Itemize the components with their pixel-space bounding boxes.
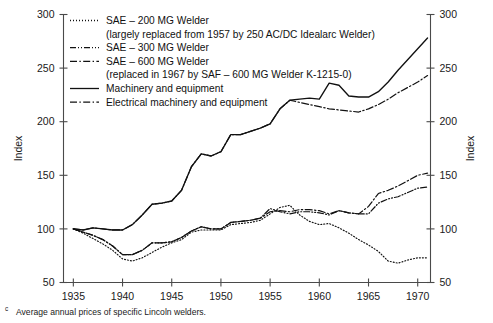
y-axis-title-left: Index [12,135,24,161]
series-line [73,38,427,230]
y-axis-title-right: Index [464,135,476,161]
y-tick-label-left: 100 [37,223,55,235]
x-tick-label: 1960 [308,290,332,302]
x-tick-label: 1935 [62,290,86,302]
y-tick-label-left: 300 [37,8,55,20]
y-tick-label-right: 200 [440,115,458,127]
legend-label: Electrical machinery and equipment [106,97,268,108]
y-tick-label-left: 50 [43,276,55,288]
x-tick-label: 1970 [406,290,430,302]
legend-label: SAE – 200 MG Welder [106,15,209,26]
y-tick-label-right: 50 [440,276,452,288]
x-tick-label: 1945 [160,290,184,302]
legend-label: (largely replaced from 1957 by 250 AC/DC… [106,29,375,40]
x-tick-label: 1955 [258,290,282,302]
series-line [73,173,427,254]
legend-label: SAE – 300 MG Welder [106,42,209,53]
axes: 5050100100150150200200250250300300193519… [12,8,476,301]
x-tick-label: 1940 [111,290,135,302]
y-tick-label-right: 250 [440,62,458,74]
chart-legend: SAE – 200 MG Welder(largely replaced fro… [70,15,375,108]
y-tick-label-right: 300 [440,8,458,20]
legend-label: (replaced in 1967 by SAF – 600 MG Welder… [106,69,352,80]
figure-container: 5050100100150150200200250250300300193519… [0,0,493,323]
legend-label: SAE – 600 MG Welder [106,56,209,67]
x-tick-label: 1965 [357,290,381,302]
footnote-marker: c [5,305,9,312]
series-line [73,187,427,255]
figure-footnote: cAverage annual prices of specific Linco… [5,305,206,317]
legend-label: Machinery and equipment [106,83,223,94]
y-tick-label-left: 150 [37,169,55,181]
y-tick-label-left: 200 [37,115,55,127]
y-tick-label-right: 100 [440,223,458,235]
y-tick-label-right: 150 [440,169,458,181]
y-tick-label-left: 250 [37,62,55,74]
x-tick-label: 1950 [209,290,233,302]
line-chart: 5050100100150150200200250250300300193519… [0,0,493,323]
footnote-label: Average annual prices of specific Lincol… [16,307,206,317]
